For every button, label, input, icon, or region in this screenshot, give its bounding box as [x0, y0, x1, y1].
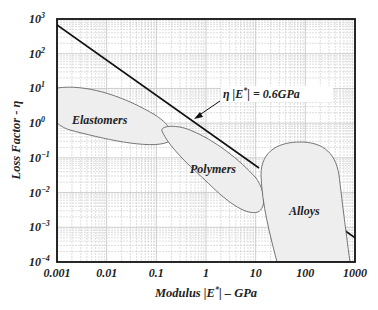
y-tick-label: 101 — [29, 80, 45, 95]
x-tick-label: 0.001 — [44, 266, 71, 280]
x-tick-label: 1 — [203, 266, 209, 280]
x-tick-labels: 0.0010.010.11101001000 — [44, 266, 368, 280]
elastomers-label: Elastomers — [71, 113, 128, 127]
annotation-text: η |E*| = 0.6GPa — [223, 86, 300, 101]
x-tick-label: 100 — [296, 266, 314, 280]
x-axis-label: Modulus |E*| – GPa — [154, 285, 257, 300]
polymers-label: Polymers — [190, 162, 236, 176]
y-tick-label: 10−2 — [29, 185, 50, 200]
x-tick-label: 1000 — [343, 266, 367, 280]
x-tick-label: 0.1 — [149, 266, 164, 280]
y-tick-label: 103 — [29, 11, 45, 26]
alloys-label: Alloys — [288, 204, 320, 218]
y-tick-labels: 10310210110010−110−210−310−4 — [29, 11, 50, 269]
y-axis-label: Loss Factor - η — [9, 101, 23, 181]
x-tick-label: 0.01 — [96, 266, 117, 280]
chart: Elastomers Polymers Alloys η |E*| = 0.6G… — [0, 0, 378, 310]
y-tick-label: 102 — [29, 46, 45, 61]
y-tick-label: 10−1 — [29, 150, 50, 165]
y-tick-label: 10−3 — [29, 219, 50, 234]
y-tick-label: 100 — [29, 115, 45, 130]
x-tick-label: 10 — [250, 266, 262, 280]
